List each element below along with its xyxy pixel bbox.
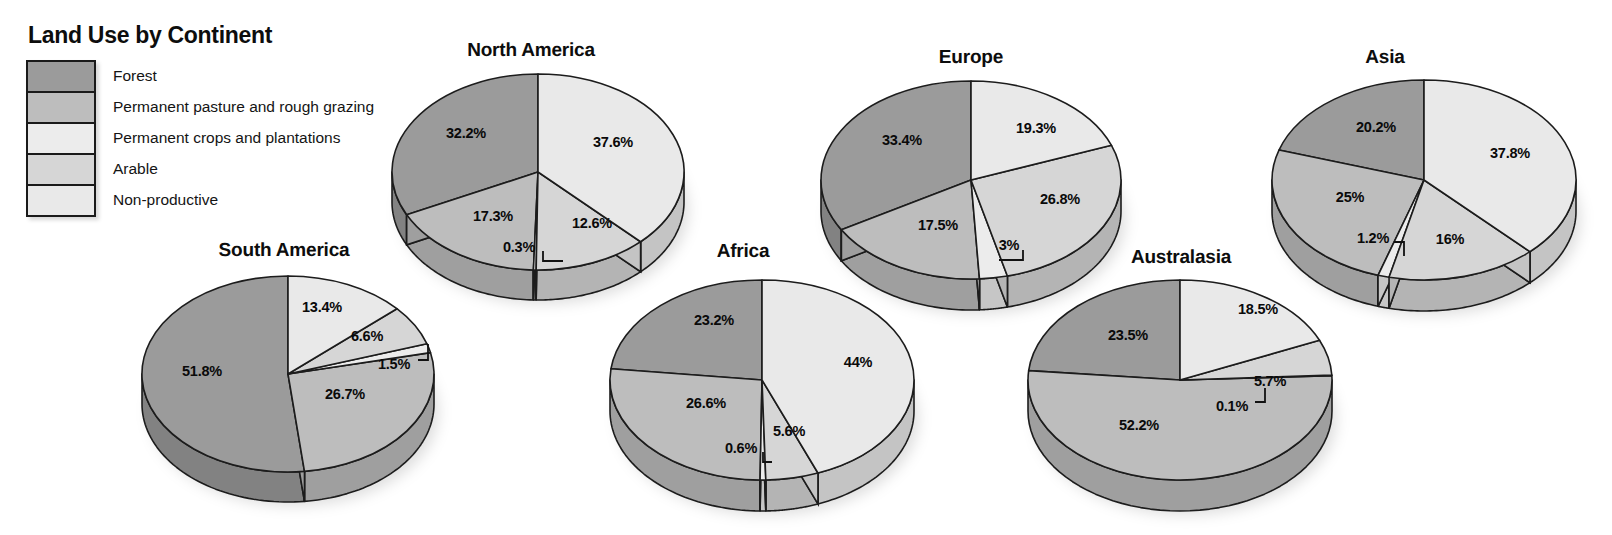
chart-title: South America xyxy=(219,240,350,262)
pie-slice-label: 13.4% xyxy=(302,299,342,315)
pie-slice-label: 33.4% xyxy=(882,132,922,148)
pie-top-faces xyxy=(392,74,684,270)
chart-canvas: Land Use by Continent ForestPermanent pa… xyxy=(0,0,1612,535)
legend-item-label: Permanent crops and plantations xyxy=(113,122,374,153)
pie-slice-label: 1.5% xyxy=(378,356,410,372)
chart-title: North America xyxy=(467,40,595,62)
pie-slice-label: 23.2% xyxy=(694,312,734,328)
pie-slice-label: 20.2% xyxy=(1356,119,1396,135)
legend-item-label: Non-productive xyxy=(113,184,374,215)
chart-title: Australasia xyxy=(1131,247,1231,269)
pie-slice-label: 3% xyxy=(999,237,1020,253)
pie-slice-label: 26.7% xyxy=(325,386,365,402)
pie-slice-label: 0.3% xyxy=(503,239,535,255)
pie-slice-label: 0.6% xyxy=(725,440,757,456)
pie-slice-label: 23.5% xyxy=(1108,327,1148,343)
pie-slice-label: 25% xyxy=(1336,189,1364,205)
pie-top-faces xyxy=(1272,80,1576,280)
pie-slice-label: 0.1% xyxy=(1216,398,1248,414)
legend-swatch-stack xyxy=(26,60,96,217)
pie-slice-label: 17.3% xyxy=(473,208,513,224)
pie-slice-label: 17.5% xyxy=(918,217,958,233)
pie-chart: 23.5%52.2%0.1%5.7%18.5% xyxy=(1004,256,1356,535)
pie-slice-label: 26.8% xyxy=(1040,191,1080,207)
pie-slice-label: 26.6% xyxy=(686,395,726,411)
legend-label-stack: ForestPermanent pasture and rough grazin… xyxy=(113,60,374,215)
pie-slice-label: 44% xyxy=(844,354,872,370)
pie-slice-label: 51.8% xyxy=(182,363,222,379)
pie-slice-label: 19.3% xyxy=(1016,120,1056,136)
pie-top-faces xyxy=(1028,280,1332,480)
legend-swatch xyxy=(28,155,94,186)
pie-slice-label: 12.6% xyxy=(572,215,612,231)
legend-swatch xyxy=(28,186,94,215)
pie-slice-label: 37.6% xyxy=(593,134,633,150)
pie-svg xyxy=(1004,256,1356,535)
pie-svg xyxy=(586,256,938,535)
chart-title: Africa xyxy=(717,241,770,263)
pie-svg xyxy=(118,252,458,535)
pie-slice-label: 52.2% xyxy=(1119,417,1159,433)
pie-slice[interactable] xyxy=(1029,280,1180,380)
pie-slice-label: 18.5% xyxy=(1238,301,1278,317)
pie-top-faces xyxy=(821,81,1121,279)
legend-swatch xyxy=(28,93,94,124)
chart-title: Europe xyxy=(939,47,1003,69)
legend-title: Land Use by Continent xyxy=(28,22,374,49)
legend-item-label: Permanent pasture and rough grazing xyxy=(113,91,374,122)
pie-chart: 51.8%26.7%1.5%6.6%13.4% xyxy=(118,252,458,535)
pie-slice-label: 16% xyxy=(1436,231,1464,247)
pie-chart: 23.2%26.6%0.6%5.6%44% xyxy=(586,256,938,535)
legend-item-label: Forest xyxy=(113,60,374,91)
legend: Land Use by Continent ForestPermanent pa… xyxy=(26,22,374,217)
chart-title: Asia xyxy=(1365,47,1404,69)
pie-slice-label: 5.6% xyxy=(773,423,805,439)
pie-slice[interactable] xyxy=(611,280,762,380)
pie-slice-label: 1.2% xyxy=(1357,230,1389,246)
legend-item-label: Arable xyxy=(113,153,374,184)
pie-top-faces xyxy=(610,280,914,480)
pie-slice-label: 32.2% xyxy=(446,125,486,141)
pie-slice-label: 37.8% xyxy=(1490,145,1530,161)
pie-slice-label: 6.6% xyxy=(351,328,383,344)
legend-swatch xyxy=(28,124,94,155)
pie-slice-label: 5.7% xyxy=(1254,373,1286,389)
legend-swatch xyxy=(28,62,94,93)
